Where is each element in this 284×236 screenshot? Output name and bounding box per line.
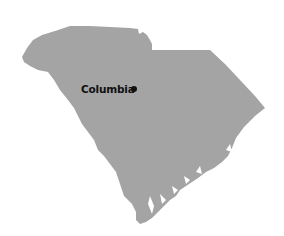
state-map — [0, 0, 284, 236]
city-label-columbia: Columbia — [81, 84, 135, 95]
city-marker-columbia — [131, 86, 137, 92]
south-carolina-shape — [22, 26, 265, 224]
